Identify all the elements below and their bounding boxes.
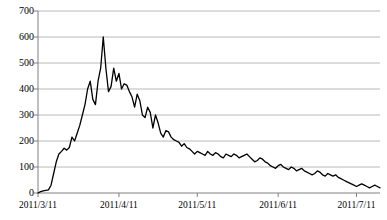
x-axis-tick-label: 2011/7/11: [338, 200, 376, 210]
x-axis-tick-label: 2011/4/11: [100, 200, 138, 210]
axis-lines: [38, 11, 380, 193]
x-axis-ticks: [34, 11, 357, 197]
line-chart-plot: [0, 0, 387, 220]
x-axis-tick-label: 2011/3/11: [19, 200, 57, 210]
x-axis-tick-label: 2011/6/11: [259, 200, 297, 210]
x-axis-tick-label: 2011/5/11: [178, 200, 216, 210]
chart-container: 7006005004003002001000 2011/3/112011/4/1…: [0, 0, 387, 220]
grid-lines: [38, 11, 380, 167]
